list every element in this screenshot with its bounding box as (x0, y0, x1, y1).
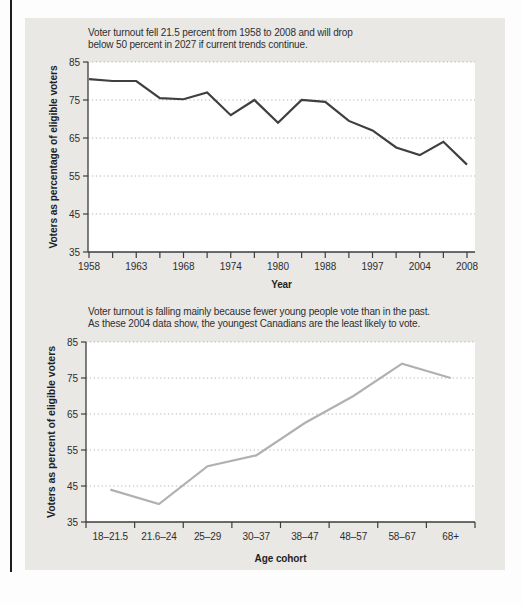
x-tick-label: 1980 (267, 261, 289, 272)
x-tick-label: 2008 (456, 261, 478, 272)
y-tick-label: 55 (69, 171, 80, 182)
y-axis-title: Voters as percentage of eligible voters (48, 65, 59, 249)
y-tick-label: 45 (67, 481, 78, 492)
x-tick-label: 21.6–24 (141, 531, 177, 542)
y-tick-label: 35 (67, 517, 78, 528)
y-tick-label: 85 (67, 337, 78, 348)
x-tick-label: 2004 (409, 261, 431, 272)
x-tick-label: 30–37 (243, 531, 271, 542)
charts-canvas: 8575655545351958196319681974198019881997… (0, 0, 522, 604)
y-tick-label: 85 (69, 57, 80, 68)
y-tick-label: 75 (67, 373, 78, 384)
x-axis-title: Age cohort (255, 553, 308, 564)
x-tick-label: 48–57 (340, 531, 368, 542)
x-tick-label: 1963 (125, 261, 147, 272)
y-tick-label: 75 (69, 95, 80, 106)
x-tick-label: 1968 (173, 261, 195, 272)
x-tick-label: 1974 (220, 261, 242, 272)
x-tick-label: 1997 (362, 261, 384, 272)
y-tick-label: 55 (67, 445, 78, 456)
plot-area (88, 62, 475, 252)
x-axis-title: Year (271, 279, 292, 290)
y-axis-title: Voters as percent of eligible voters (46, 345, 57, 518)
x-tick-label: 58–67 (388, 531, 416, 542)
y-tick-label: 35 (69, 247, 80, 258)
x-tick-label: 1958 (78, 261, 100, 272)
x-tick-label: 18–21.5 (93, 531, 129, 542)
y-tick-label: 65 (67, 409, 78, 420)
y-tick-label: 45 (69, 209, 80, 220)
y-tick-label: 65 (69, 133, 80, 144)
x-tick-label: 38–47 (291, 531, 319, 542)
x-tick-label: 25–29 (194, 531, 222, 542)
x-tick-label: 68+ (442, 531, 459, 542)
x-tick-label: 1988 (314, 261, 336, 272)
page: Voter turnout fell 21.5 percent from 195… (0, 0, 522, 604)
